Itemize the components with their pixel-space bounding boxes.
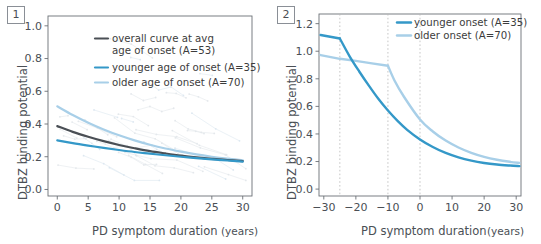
- subject-point: [154, 165, 156, 167]
- subject-point: [202, 170, 204, 172]
- panel-1: 1 DTBZ binding potential PD symptom dura…: [0, 0, 271, 244]
- subject-point: [118, 152, 120, 154]
- subject-point: [130, 93, 132, 95]
- subject-point: [99, 148, 101, 150]
- subject-line: [72, 122, 87, 130]
- x-tick-label: 10: [112, 201, 126, 214]
- subject-point: [197, 96, 199, 98]
- subject-point: [187, 130, 189, 132]
- subject-point: [91, 142, 93, 144]
- subject-point: [93, 109, 95, 111]
- panel-1-legend: overall curve at avgage of onset (A=53)y…: [95, 33, 261, 88]
- subject-point: [155, 97, 157, 99]
- x-tick-label: 0: [54, 201, 61, 214]
- y-tick-label: 0.6: [25, 85, 43, 98]
- subject-point: [96, 140, 98, 142]
- subject-point: [232, 169, 234, 171]
- subject-point: [150, 158, 152, 160]
- panel-2: 2 DTBZ binding potential PD symptom dura…: [271, 0, 541, 244]
- x-tick-label: 15: [143, 201, 157, 214]
- subject-point: [156, 163, 158, 165]
- subject-point: [245, 180, 247, 182]
- subject-point: [133, 180, 135, 182]
- subject-point: [185, 97, 187, 99]
- subject-point: [59, 116, 61, 118]
- subject-point: [57, 164, 59, 166]
- subject-point: [187, 128, 189, 130]
- subject-line: [122, 118, 134, 121]
- y-tick-label: 0.8: [25, 52, 43, 65]
- subject-point: [83, 155, 85, 157]
- subject-point: [152, 57, 154, 59]
- subject-point: [130, 57, 132, 59]
- subject-point: [117, 116, 119, 118]
- subject-point: [161, 111, 163, 113]
- subject-point: [191, 112, 193, 114]
- subject-point: [132, 116, 134, 118]
- legend-label-older: older onset (A=70): [414, 30, 511, 41]
- subject-point: [211, 74, 213, 76]
- subject-point: [142, 100, 144, 102]
- subject-point: [213, 133, 215, 135]
- subject-point: [195, 130, 197, 132]
- x-tick-label: −30: [312, 201, 335, 214]
- x-tick-label: 30: [236, 201, 250, 214]
- subject-line: [136, 130, 197, 144]
- subject-line: [131, 57, 140, 59]
- legend-label-older: older age of onset (A=70): [112, 77, 244, 88]
- subject-line: [138, 106, 174, 111]
- subject-point: [116, 136, 118, 138]
- subject-point: [109, 38, 111, 40]
- subject-point: [77, 120, 79, 122]
- subject-point: [155, 133, 157, 135]
- subject-point: [207, 100, 209, 102]
- legend-label-overall: overall curve at avg: [112, 33, 214, 44]
- subject-point: [108, 140, 110, 142]
- subject-point: [147, 125, 149, 127]
- subject-point: [83, 137, 85, 139]
- y-tick-label: 1.0: [25, 20, 43, 33]
- subject-line: [131, 94, 156, 101]
- x-tick-label: 5: [85, 201, 92, 214]
- subject-point: [161, 142, 163, 144]
- subject-point: [114, 117, 116, 119]
- subject-point: [175, 93, 177, 95]
- subject-point: [171, 130, 173, 132]
- subject-point: [215, 128, 217, 130]
- subject-point: [139, 59, 141, 61]
- subject-point: [158, 180, 160, 182]
- subject-line: [175, 121, 214, 134]
- subject-point: [59, 128, 61, 130]
- subject-point: [182, 95, 184, 97]
- y-tick-label: 0.6: [296, 100, 314, 113]
- curve-younger-post: [340, 39, 520, 167]
- y-tick-label: 0.0: [25, 183, 43, 196]
- panel-1-plot: 0510152025300.00.20.40.60.81.0overall cu…: [0, 0, 271, 244]
- x-tick-label: −10: [376, 201, 399, 214]
- subject-point: [130, 156, 132, 158]
- x-tick-label: 20: [174, 201, 188, 214]
- subject-point: [121, 118, 123, 120]
- figure-root: 1 DTBZ binding potential PD symptom dura…: [0, 0, 541, 244]
- panel-2-legend: younger onset (A=35)older onset (A=70): [397, 17, 527, 41]
- subject-point: [86, 129, 88, 131]
- subject-point: [93, 168, 95, 170]
- subject-point: [156, 148, 158, 150]
- y-tick-label: 0.2: [296, 155, 314, 168]
- subject-point: [228, 174, 230, 176]
- subject-point: [174, 120, 176, 122]
- subject-point: [199, 147, 201, 149]
- x-tick-label: 25: [205, 201, 219, 214]
- y-tick-label: 0.2: [25, 151, 43, 164]
- subject-point: [76, 137, 78, 139]
- subject-point: [204, 166, 206, 168]
- subject-line: [60, 116, 68, 117]
- subject-point: [107, 134, 109, 136]
- subject-line: [192, 113, 240, 141]
- subject-point: [199, 144, 201, 146]
- subject-point: [165, 92, 167, 94]
- subject-point: [103, 163, 105, 165]
- subject-point: [161, 173, 163, 175]
- x-tick-label: 20: [477, 201, 491, 214]
- subject-point: [71, 121, 73, 123]
